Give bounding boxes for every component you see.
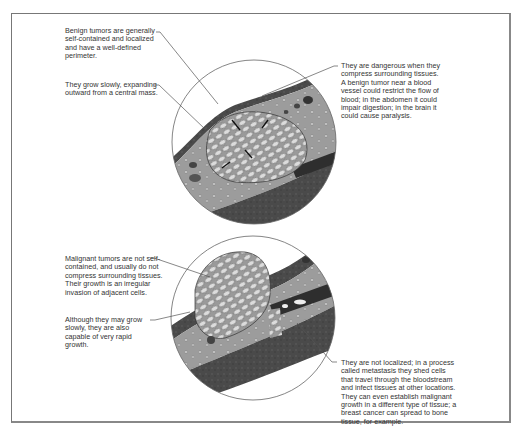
malignant-label-growth: Although they may grow slowly, they are …	[65, 316, 153, 350]
malignant-label-metastasis: They are not localized; in a process cal…	[341, 359, 459, 426]
benign-label-danger: They are dangerous when they compress su…	[341, 62, 441, 121]
benign-label-contained: Benign tumors are generally self-contain…	[65, 27, 160, 61]
benign-tumor-view	[150, 40, 350, 260]
malignant-label-invasion: Malignant tumors are not self-contained,…	[65, 255, 165, 297]
benign-label-growth: They grow slowly, expanding outward from…	[65, 81, 165, 98]
malignant-tumor-view	[165, 225, 345, 410]
